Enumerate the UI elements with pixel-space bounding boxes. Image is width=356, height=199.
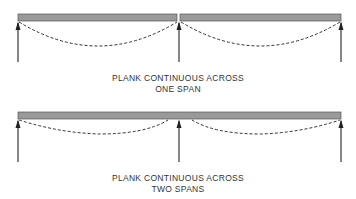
deflection-curve-left [19, 120, 168, 134]
caption-two-spans: PLANK CONTINUOUS ACROSS TWO SPANS [0, 173, 356, 195]
caption-line: TWO SPANS [0, 184, 356, 195]
deflection-curve-left [19, 22, 177, 46]
arrowhead-icon [177, 120, 182, 129]
plank-diagrams [0, 0, 356, 199]
arrowhead-icon [16, 120, 21, 129]
deflection-curve-right [192, 120, 340, 134]
diagram-two-spans [16, 112, 344, 162]
plank-full [18, 112, 341, 119]
caption-one-span: PLANK CONTINUOUS ACROSS ONE SPAN [0, 73, 356, 95]
deflection-curve-right [181, 22, 340, 46]
plank-right [180, 14, 341, 21]
arrowhead-icon [339, 120, 344, 129]
caption-line: PLANK CONTINUOUS ACROSS [0, 173, 356, 184]
plank-left [18, 14, 177, 21]
arrowhead-icon [177, 22, 182, 31]
diagram-one-span [16, 14, 344, 62]
caption-line: PLANK CONTINUOUS ACROSS [0, 73, 356, 84]
caption-line: ONE SPAN [0, 84, 356, 95]
